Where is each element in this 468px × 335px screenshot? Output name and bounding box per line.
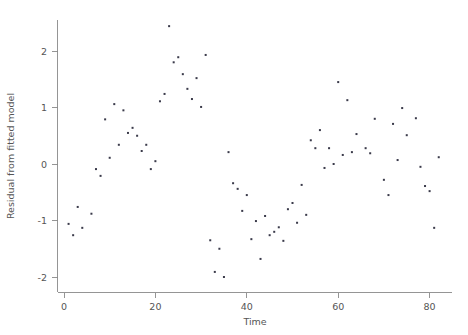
data-point (104, 118, 106, 120)
data-point (182, 73, 184, 75)
y-tick-label: 1 (41, 102, 47, 113)
data-point (328, 147, 330, 149)
x-axis-title: Time (242, 316, 266, 327)
data-point (237, 188, 239, 190)
data-point (132, 127, 134, 129)
data-point (255, 220, 257, 222)
data-point (223, 276, 225, 278)
data-point (406, 134, 408, 136)
data-point (177, 56, 179, 58)
data-point (278, 226, 280, 228)
data-point (164, 93, 166, 95)
data-point (141, 150, 143, 152)
data-point (292, 202, 294, 204)
data-point (122, 109, 124, 111)
data-point (424, 185, 426, 187)
data-point (365, 147, 367, 149)
data-point (319, 129, 321, 131)
data-point (415, 117, 417, 119)
data-point (305, 214, 307, 216)
data-point (100, 175, 102, 177)
data-point (81, 227, 83, 229)
data-point (145, 144, 147, 146)
data-point (232, 182, 234, 184)
data-point (314, 147, 316, 149)
data-point (273, 231, 275, 233)
data-point (136, 135, 138, 137)
data-point (342, 154, 344, 156)
data-point (95, 168, 97, 170)
data-point (355, 133, 357, 135)
data-point (77, 206, 79, 208)
data-point (333, 163, 335, 165)
data-point (228, 151, 230, 153)
y-tick-label: 2 (41, 46, 47, 57)
data-point (387, 194, 389, 196)
data-point (191, 98, 193, 100)
data-point (173, 61, 175, 63)
x-tick-label: 80 (424, 301, 436, 312)
data-point (196, 77, 198, 79)
data-point (264, 215, 266, 217)
data-point (109, 157, 111, 159)
data-point (113, 103, 115, 105)
data-point (127, 132, 129, 134)
data-point (90, 213, 92, 215)
y-axis-title: Residual from fitted model (5, 93, 16, 219)
data-point (214, 271, 216, 273)
y-tick-label: -1 (38, 215, 47, 226)
data-point (287, 208, 289, 210)
data-point (200, 106, 202, 108)
data-point (246, 194, 248, 196)
data-point (260, 258, 262, 260)
data-point (438, 156, 440, 158)
data-point (351, 151, 353, 153)
data-point (150, 168, 152, 170)
data-point (241, 210, 243, 212)
data-point (392, 123, 394, 125)
y-axis: -2-1012 (38, 20, 58, 292)
data-point (310, 139, 312, 141)
data-point (397, 159, 399, 161)
data-point (369, 152, 371, 154)
data-point (346, 99, 348, 101)
data-point (154, 160, 156, 162)
data-point (218, 248, 220, 250)
data-point (282, 240, 284, 242)
data-point (168, 25, 170, 27)
data-point (401, 107, 403, 109)
x-tick-label: 20 (149, 301, 161, 312)
chart-canvas: -2-1012 020406080 Time Residual from fit… (0, 0, 468, 335)
data-point (429, 190, 431, 192)
y-tick-label: 0 (41, 159, 47, 170)
data-point (209, 239, 211, 241)
y-tick-group: -2-1012 (38, 46, 58, 283)
x-tick-label: 60 (332, 301, 344, 312)
data-point (433, 227, 435, 229)
x-tick-label: 40 (241, 301, 253, 312)
data-point (269, 234, 271, 236)
data-point (118, 144, 120, 146)
scatter-plot-figure: -2-1012 020406080 Time Residual from fit… (0, 0, 468, 335)
x-tick-group: 020406080 (61, 293, 436, 313)
data-point (159, 100, 161, 102)
y-tick-label: -2 (38, 272, 47, 283)
x-axis: 020406080 (58, 293, 453, 313)
data-point (323, 167, 325, 169)
data-point (296, 222, 298, 224)
data-point (186, 88, 188, 90)
data-point (205, 54, 207, 56)
x-tick-label: 0 (61, 301, 67, 312)
data-point-group (68, 25, 440, 278)
data-point (301, 184, 303, 186)
data-point (337, 81, 339, 83)
data-point (374, 118, 376, 120)
data-point (419, 166, 421, 168)
data-point (68, 223, 70, 225)
data-point (383, 179, 385, 181)
data-point (72, 234, 74, 236)
data-point (250, 238, 252, 240)
